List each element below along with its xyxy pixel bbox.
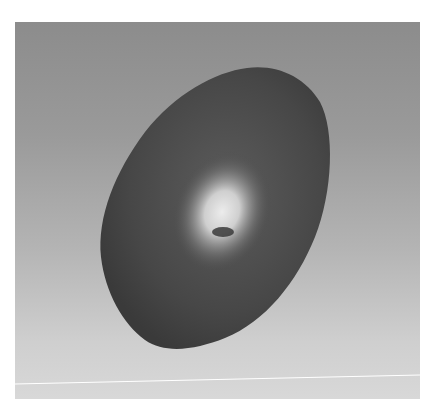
white-line xyxy=(15,375,420,384)
dark-notch xyxy=(212,227,234,237)
photo xyxy=(15,22,420,399)
ovoid-object-render xyxy=(15,22,420,399)
